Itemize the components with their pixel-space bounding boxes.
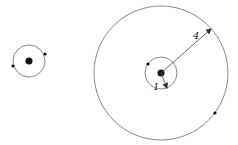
outer-satellite bbox=[213, 111, 216, 114]
left-central-body bbox=[26, 58, 33, 65]
left-satellite-1 bbox=[43, 52, 46, 55]
outer-radius-label: 4 bbox=[192, 30, 199, 41]
inner-radius-arrow bbox=[161, 73, 167, 88]
outer-radius-arrow bbox=[161, 29, 211, 73]
left-satellite-2 bbox=[11, 64, 14, 67]
left-orbit-system bbox=[11, 45, 46, 77]
inner-radius-label: 1 bbox=[153, 81, 159, 92]
right-orbit-system: 4 1 bbox=[94, 6, 228, 140]
inner-satellite bbox=[146, 62, 149, 65]
orbit-diagram: 4 1 bbox=[0, 0, 238, 145]
